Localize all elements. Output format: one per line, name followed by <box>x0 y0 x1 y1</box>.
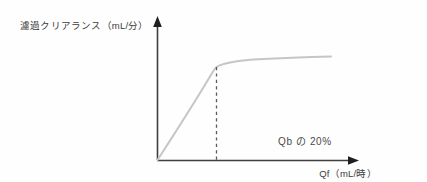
y-axis-label: 濾過クリアランス（mL/分） <box>20 20 149 31</box>
filtration-clearance-chart: 濾過クリアランス（mL/分） Qf（mL/時） Qb の 20% <box>0 0 427 182</box>
qb-20-percent-label: Qb の 20% <box>278 136 332 147</box>
chart-canvas: 濾過クリアランス（mL/分） Qf（mL/時） Qb の 20% <box>0 0 427 182</box>
x-axis-label: Qf（mL/時） <box>319 168 376 179</box>
